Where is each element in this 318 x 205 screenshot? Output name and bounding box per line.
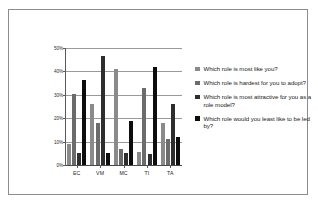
x-axis-tick-label: TI	[135, 170, 158, 176]
x-axis-category: MC	[112, 165, 135, 181]
bar	[142, 88, 146, 165]
bar	[161, 123, 165, 165]
plot-area: 0%10%20%30%40%50% ECVMMCTITA	[45, 48, 183, 188]
x-axis-tick	[77, 165, 78, 168]
legend-swatch-icon	[195, 95, 200, 100]
bar-group	[88, 48, 111, 165]
x-axis-category: TA	[159, 165, 182, 181]
x-axis-category: VM	[88, 165, 111, 181]
bar	[129, 121, 133, 165]
legend-item-label: Which role is hardest for you to adopt?	[204, 79, 306, 87]
x-axis-labels: ECVMMCTITA	[65, 165, 182, 181]
bar-group	[112, 48, 135, 165]
bar-group	[135, 48, 158, 165]
bar	[106, 153, 110, 165]
bar	[82, 80, 86, 165]
chart-frame: 0%10%20%30%40%50% ECVMMCTITA Which role …	[8, 9, 308, 195]
y-axis-tick-label: 40%	[54, 69, 63, 74]
bar	[72, 94, 76, 165]
legend-item: Which role is most like you?	[195, 65, 315, 73]
legend-item-label: Which role is most attractive for you as…	[204, 93, 316, 108]
bar-group	[65, 48, 88, 165]
bar	[124, 153, 128, 165]
chart-legend: Which role is most like you?Which role i…	[195, 65, 315, 137]
bar-group	[159, 48, 182, 165]
bar	[171, 104, 175, 165]
y-axis-tick-label: 30%	[54, 92, 63, 97]
bar	[119, 149, 123, 165]
bar-groups	[65, 48, 182, 165]
legend-item: Which role is hardest for you to adopt?	[195, 79, 315, 87]
bar	[90, 104, 94, 165]
legend-item-label: Which role is most like you?	[204, 65, 278, 73]
bar	[101, 56, 105, 165]
x-axis-tick-label: TA	[159, 170, 182, 176]
x-axis-tick-label: MC	[112, 170, 135, 176]
legend-swatch-icon	[195, 67, 200, 72]
legend-item: Which role is most attractive for you as…	[195, 93, 315, 108]
x-axis-tick	[124, 165, 125, 168]
y-axis-labels: 0%10%20%30%40%50%	[45, 48, 63, 165]
x-axis-tick-label: VM	[88, 170, 111, 176]
bar	[77, 153, 81, 165]
y-axis-tick-label: 20%	[54, 116, 63, 121]
bar	[96, 123, 100, 165]
x-axis-category: TI	[135, 165, 158, 181]
bar	[67, 144, 71, 165]
bar	[114, 69, 118, 165]
y-axis-tick-label: 50%	[54, 46, 63, 51]
legend-swatch-icon	[195, 81, 200, 86]
y-axis-tick-label: 10%	[54, 139, 63, 144]
legend-item: Which role would you least like to be le…	[195, 115, 315, 130]
bar	[153, 67, 157, 165]
x-axis-tick	[170, 165, 171, 168]
x-axis-category: EC	[65, 165, 88, 181]
x-axis-tick	[100, 165, 101, 168]
x-axis-tick-label: EC	[65, 170, 88, 176]
bar	[148, 154, 152, 165]
x-axis-tick	[147, 165, 148, 168]
chart-page: 0%10%20%30%40%50% ECVMMCTITA Which role …	[0, 0, 318, 205]
bar	[137, 152, 141, 165]
legend-item-label: Which role would you least like to be le…	[204, 115, 316, 130]
legend-swatch-icon	[195, 116, 200, 121]
bar	[176, 137, 180, 165]
bar	[166, 139, 170, 165]
